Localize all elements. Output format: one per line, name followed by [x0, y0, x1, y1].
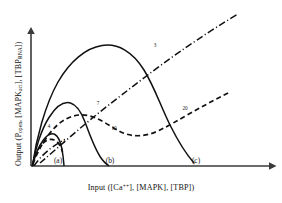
- dashdot-rising-group: [40, 14, 238, 163]
- y-axis-title-sub-open: open: [17, 122, 23, 133]
- curve-tag-4: 4: [48, 123, 51, 129]
- curve-tag-group: 3 7 10 20 4 1: [48, 42, 188, 144]
- x-axis-arrowhead: [269, 162, 277, 170]
- curve-dashdot-rising: [40, 14, 238, 163]
- curve-tag-20: 20: [182, 105, 188, 111]
- y-axis-title: Output (Popen, [MAPKact], [TBPRNA]): [14, 6, 28, 166]
- y-axis-title-mid2: ], [TBP: [14, 59, 23, 84]
- panel-tag-group: (a) (b) (c): [54, 156, 201, 165]
- y-axis-title-mid1: , [MAPK: [14, 91, 23, 122]
- y-axis-title-tail: ]): [14, 41, 23, 47]
- plot-canvas: 3 7 10 20 4 1 (a) (b) (c): [0, 0, 282, 203]
- panel-tag-b: (b): [106, 156, 115, 165]
- y-axis-title-sub-rna: RNA: [17, 47, 23, 59]
- axes-group: [27, 27, 276, 170]
- group-b-curves: [33, 103, 109, 166]
- panel-tag-a: (a): [54, 156, 63, 165]
- y-axis-title-lead: Output (P: [14, 133, 23, 166]
- curve-tag-1: 1: [63, 138, 66, 144]
- x-axis-title-mid: ], [MAPK], [TBP]): [129, 183, 194, 192]
- y-axis-arrowhead: [27, 27, 35, 34]
- y-axis-title-sub-act: act: [17, 84, 23, 91]
- curve-tag-10: 10: [111, 125, 117, 131]
- group-c-curves: [33, 45, 195, 165]
- curve-tag-7: 7: [97, 100, 100, 106]
- curve-tag-3: 3: [154, 42, 157, 48]
- x-axis-title: Input ([Ca++], [MAPK], [TBP]): [0, 183, 282, 192]
- figure-root: 3 7 10 20 4 1 (a) (b) (c) Input ([Ca++],…: [0, 0, 282, 203]
- panel-tag-c: (c): [192, 156, 201, 165]
- x-axis-title-lead: Input ([Ca: [88, 183, 123, 192]
- curve-solid-bell-b: [33, 103, 109, 166]
- curve-solid-bell-c: [33, 45, 195, 165]
